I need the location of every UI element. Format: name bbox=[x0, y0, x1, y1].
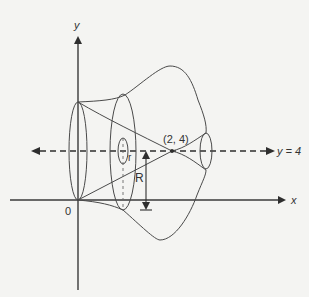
diagram-graphics bbox=[0, 0, 309, 297]
point-label: (2, 4) bbox=[163, 134, 189, 145]
axis-of-rotation-label: y = 4 bbox=[277, 146, 301, 157]
x-axis-label: x bbox=[291, 195, 297, 206]
y-axis-label: y bbox=[74, 20, 80, 31]
right-arrow-icon bbox=[266, 147, 275, 155]
outer-radius-label: R bbox=[135, 172, 144, 184]
solid-of-revolution-diagram: y x 0 (2, 4) y = 4 R r bbox=[0, 0, 309, 297]
inner-surface-lower bbox=[78, 151, 172, 200]
outer-surface-upper bbox=[78, 66, 206, 133]
point-2-4-marker bbox=[170, 149, 174, 153]
inner-surface-upper bbox=[78, 102, 172, 151]
inner-radius-label: r bbox=[128, 153, 131, 163]
origin-label: 0 bbox=[65, 206, 71, 217]
down-arrow-icon bbox=[142, 202, 150, 210]
axis-of-rotation-line bbox=[31, 147, 275, 155]
up-arrow-icon bbox=[142, 151, 150, 159]
left-arrow-icon bbox=[31, 147, 40, 155]
